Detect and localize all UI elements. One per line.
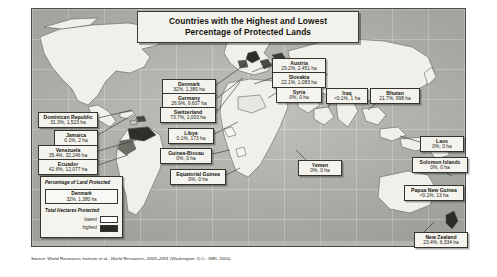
callout-yemen: Yemen0%, 0 ha	[298, 160, 342, 176]
legend-sample-value: 32%, 1,380 ha	[48, 197, 115, 203]
callout-country-value: 42.6%, 12,077 ha	[42, 167, 94, 173]
legend-lowest-row: lowest	[45, 216, 118, 223]
callout-country-value: 0%, 0 ha	[174, 177, 222, 183]
map-title-line-1: Countries with the Highest and Lowest	[144, 16, 352, 27]
callout-equatorial-guinea: Equatorial Guinea0%, 0 ha	[170, 169, 226, 185]
callout-laos: Laos0%, 0 ha	[420, 136, 464, 152]
legend-title: Percentage of Land Protected	[45, 180, 118, 186]
callout-country-value: 0%, 0 ha	[164, 156, 208, 162]
callout-country-value: 29.2%, 2,451 ha	[276, 66, 322, 72]
callout-country-value: 31.3%, 1,523 ha	[42, 120, 94, 126]
callout-country-value: 0%, 0 ha	[424, 144, 460, 150]
callout-guinea-bissau: Guinea-Bissau0%, 0 ha	[160, 148, 212, 164]
callout-new-zealand: New Zealand23.4%, 6,334 ha	[414, 232, 468, 248]
callout-libya: Libya0.1%, 173 ha	[168, 128, 214, 144]
callout-country-value: 0.1%, 173 ha	[172, 136, 210, 142]
callout-country-value: 22.1%, 1,083 ha	[276, 80, 322, 86]
legend-lowest-swatch	[100, 216, 118, 223]
legend-lowest-label: lowest	[84, 217, 97, 223]
callout-country-value: 0%, 0 ha	[302, 168, 338, 174]
source-title: World Resources, 2000–2001	[111, 256, 169, 261]
callout-country-value: <0.1%, 13 ha	[408, 193, 460, 199]
source-suffix: (Washington, D.C.: WRI, 2000).	[169, 256, 232, 261]
callout-country-value: 0.1%, 2 ha	[58, 138, 94, 144]
legend-subtitle: Total Hectares Protected	[45, 208, 118, 214]
callout-syria: Syria0%, 0 ha	[276, 87, 322, 103]
callout-country-value: 21.7%, 998 ha	[374, 96, 416, 102]
callout-solomon-islands: Solomon Islands0%, 0 ha	[412, 157, 468, 173]
callout-country-value: 0%, 0 ha	[416, 165, 464, 171]
legend-highest-label: highest	[82, 225, 97, 231]
callout-dominican-republic: Dominican Republic31.3%, 1,523 ha	[38, 112, 98, 128]
map-figure: Countries with the Highest and Lowest Pe…	[0, 0, 497, 277]
legend-highest-swatch	[100, 225, 118, 232]
callout-switzerland: Switzerland73.7%, 1,003 ha	[160, 107, 216, 123]
callout-bhutan: Bhutan21.7%, 998 ha	[370, 88, 420, 104]
callout-country-value: <0.1%, 1 ha	[330, 96, 364, 102]
callout-slovakia: Slovakia22.1%, 1,083 ha	[272, 72, 326, 88]
map-title-line-2: Percentage of Protected Lands	[144, 27, 352, 38]
callout-country-value: 0%, 0 ha	[280, 95, 318, 101]
callout-country-value: 32%, 1,380 ha	[166, 87, 212, 93]
callout-jamaica: Jamaica0.1%, 2 ha	[54, 130, 98, 146]
callout-country-value: 73.7%, 1,003 ha	[164, 115, 212, 121]
source-prefix: Source: World Resources Institute et al.…	[31, 256, 111, 261]
callout-papua-new-guinea: Papua New Guinea<0.1%, 13 ha	[404, 185, 464, 201]
map-legend: Percentage of Land Protected Denmark 32%…	[40, 176, 123, 238]
source-note: Source: World Resources Institute et al.…	[31, 256, 451, 262]
legend-highest-row: highest	[45, 225, 118, 232]
callout-country-value: 23.4%, 6,334 ha	[418, 240, 464, 246]
callout-country-value: 35.4%, 32,246 ha	[42, 153, 94, 159]
callout-country-value: 26.9%, 9,607 ha	[166, 101, 212, 107]
callout-ecuador: Ecuador42.6%, 12,077 ha	[38, 159, 98, 175]
map-title: Countries with the Highest and Lowest Pe…	[137, 11, 359, 43]
legend-sample-callout: Denmark 32%, 1,380 ha	[45, 189, 118, 204]
callout-iraq: Iraq<0.1%, 1 ha	[326, 88, 368, 104]
